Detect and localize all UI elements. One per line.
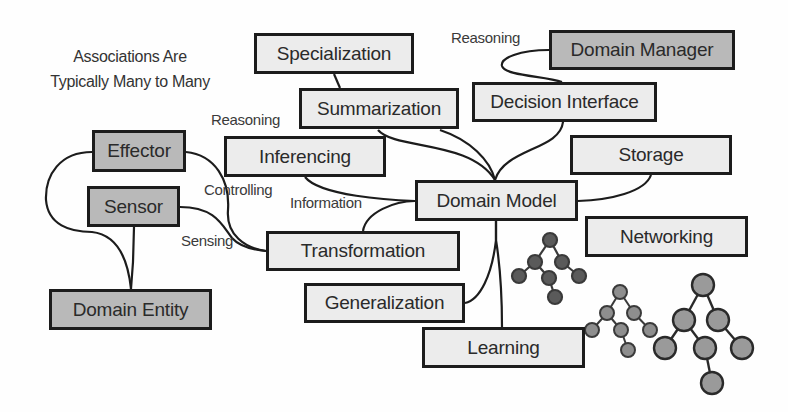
node-domain-entity: Domain Entity	[49, 289, 212, 330]
edge-domainmodel-learning	[496, 221, 502, 327]
node-decision-interface: Decision Interface	[472, 82, 657, 122]
edge-label-reasoning-left: Reasoning	[211, 111, 280, 128]
edge-sensor-domainentity	[131, 227, 134, 289]
diagram-canvas: Associations Are Typically Many to Many …	[0, 0, 788, 412]
node-learning: Learning	[422, 327, 585, 368]
edge-specialization-summarization	[334, 74, 340, 88]
edge-transformation-domainmodel	[363, 201, 415, 231]
edge-storage-domainmodel	[578, 175, 651, 201]
caption-line-1: Associations Are	[30, 44, 230, 69]
node-sensor: Sensor	[87, 186, 180, 227]
node-specialization: Specialization	[254, 33, 414, 74]
node-storage: Storage	[570, 135, 732, 175]
caption-line-2: Typically Many to Many	[30, 69, 230, 94]
edge-summarization-domainmodel-a	[378, 130, 495, 180]
edge-label-reasoning-top: Reasoning	[451, 29, 520, 46]
node-domain-manager: Domain Manager	[549, 30, 735, 70]
tree-graphic-medium	[585, 285, 657, 357]
tree-graphic-dark	[512, 233, 586, 304]
edge-label-controlling: Controlling	[204, 181, 272, 198]
node-domain-model: Domain Model	[415, 180, 578, 221]
edge-label-sensing: Sensing	[181, 232, 233, 249]
node-effector: Effector	[92, 130, 186, 172]
node-networking: Networking	[585, 216, 748, 257]
node-generalization: Generalization	[304, 283, 465, 323]
tree-graphic-large	[654, 274, 753, 394]
edge-summarization-domainmodel-b	[440, 130, 495, 180]
node-inferencing: Inferencing	[224, 136, 386, 177]
edge-decisioninterface-domainmodel	[495, 122, 563, 180]
node-transformation: Transformation	[266, 231, 460, 271]
edge-label-information: Information	[290, 194, 362, 211]
node-summarization: Summarization	[299, 88, 459, 129]
edge-domainmodel-generalization	[465, 221, 496, 303]
diagram-caption: Associations Are Typically Many to Many	[30, 44, 230, 94]
